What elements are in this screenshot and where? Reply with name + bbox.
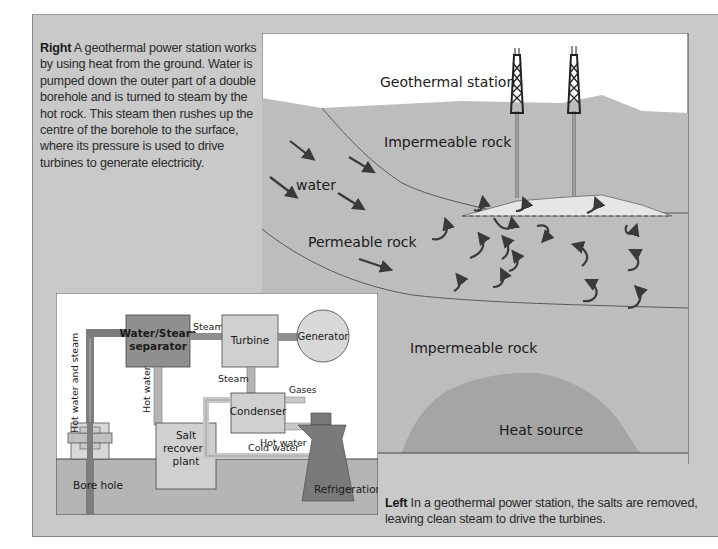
gases-pipe <box>285 397 305 403</box>
label-salt-line1: Salt <box>176 429 196 441</box>
label-heat-source: Heat source <box>499 422 583 438</box>
label-impermeable-rock-top: Impermeable rock <box>384 134 512 150</box>
label-generator: Generator <box>298 331 350 342</box>
label-bore-hole: Bore hole <box>73 479 123 491</box>
turbine-shaft <box>278 333 298 341</box>
caption-left-lead: Left <box>385 496 407 510</box>
steam-pipe-top <box>190 333 222 340</box>
hot-water-pipe <box>154 367 162 425</box>
label-water: water <box>296 177 336 193</box>
label-separator-line2: separator <box>129 340 187 352</box>
label-salt-line3: plant <box>173 455 200 467</box>
label-geothermal-station: Geothermal station <box>380 74 515 90</box>
caption-left: Left In a geothermal power station, the … <box>385 495 715 528</box>
caption-right-text: A geothermal power station works by usin… <box>40 41 256 170</box>
label-turbine: Turbine <box>230 334 270 346</box>
label-hot-water-vertical: Hot water <box>141 366 152 413</box>
label-separator-line1: Water/Steam <box>119 327 196 339</box>
label-refrigeration: Refrigeration <box>314 483 378 495</box>
label-steam-mid: Steam <box>218 373 249 384</box>
label-impermeable-rock-bottom: Impermeable rock <box>410 340 538 356</box>
label-permeable-rock: Permeable rock <box>308 234 417 250</box>
caption-left-text: In a geothermal power station, the salts… <box>385 496 698 526</box>
power-plant-schematic: Water/Steam separator Steam Turbine Gene… <box>56 293 378 515</box>
label-hot-water-and-steam: Hot water and steam <box>69 333 80 433</box>
caption-right-lead: Right <box>40 41 71 55</box>
label-gases: Gases <box>289 385 317 395</box>
label-steam-top: Steam <box>193 321 224 332</box>
label-cold-water: Cold water <box>248 442 299 453</box>
label-condenser: Condenser <box>230 405 287 417</box>
label-salt-line2: recovery <box>163 442 209 454</box>
caption-right: Right A geothermal power station works b… <box>40 40 260 171</box>
